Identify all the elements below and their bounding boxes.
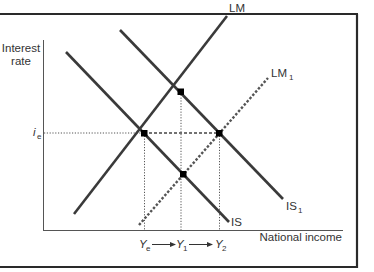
svg-text:1: 1 <box>183 244 188 253</box>
is1-label: IS 1 <box>286 200 303 215</box>
equilibrium-point-e <box>141 130 148 137</box>
is-curve <box>66 52 229 222</box>
figure-frame <box>0 14 358 268</box>
arrow-y1-to-y2 <box>189 242 213 247</box>
y-axis-label-2: rate <box>11 55 31 67</box>
y1-label: Y 1 <box>176 238 188 253</box>
arrow-ye-to-y1 <box>152 242 176 247</box>
svg-text:e: e <box>146 244 151 253</box>
svg-text:2: 2 <box>222 244 227 253</box>
axes <box>43 40 343 231</box>
is-lm-diagram: Interest rate National income LM LM 1 IS… <box>0 0 374 272</box>
guide-lines <box>44 92 220 230</box>
equilibrium-point-c <box>180 171 187 178</box>
ye-label: Y e <box>139 238 151 253</box>
equilibrium-point-a <box>178 89 185 96</box>
svg-text:1: 1 <box>289 73 294 82</box>
ie-label: i e <box>33 126 42 141</box>
lm1-curve <box>139 78 268 225</box>
svg-text:LM: LM <box>271 67 287 79</box>
is-label: IS <box>231 216 242 228</box>
lm-label: LM <box>229 2 245 14</box>
svg-text:e: e <box>37 132 42 141</box>
is1-curve <box>120 30 283 199</box>
svg-text:IS: IS <box>286 200 297 212</box>
y2-label: Y 2 <box>215 238 227 253</box>
y-axis-label: Interest <box>2 42 41 54</box>
equilibrium-point-b <box>216 130 223 137</box>
lm1-label: LM 1 <box>271 67 294 82</box>
lm-curve <box>74 16 227 214</box>
svg-text:1: 1 <box>298 206 303 215</box>
x-axis-label: National income <box>260 231 342 243</box>
svg-text:i: i <box>33 126 36 138</box>
